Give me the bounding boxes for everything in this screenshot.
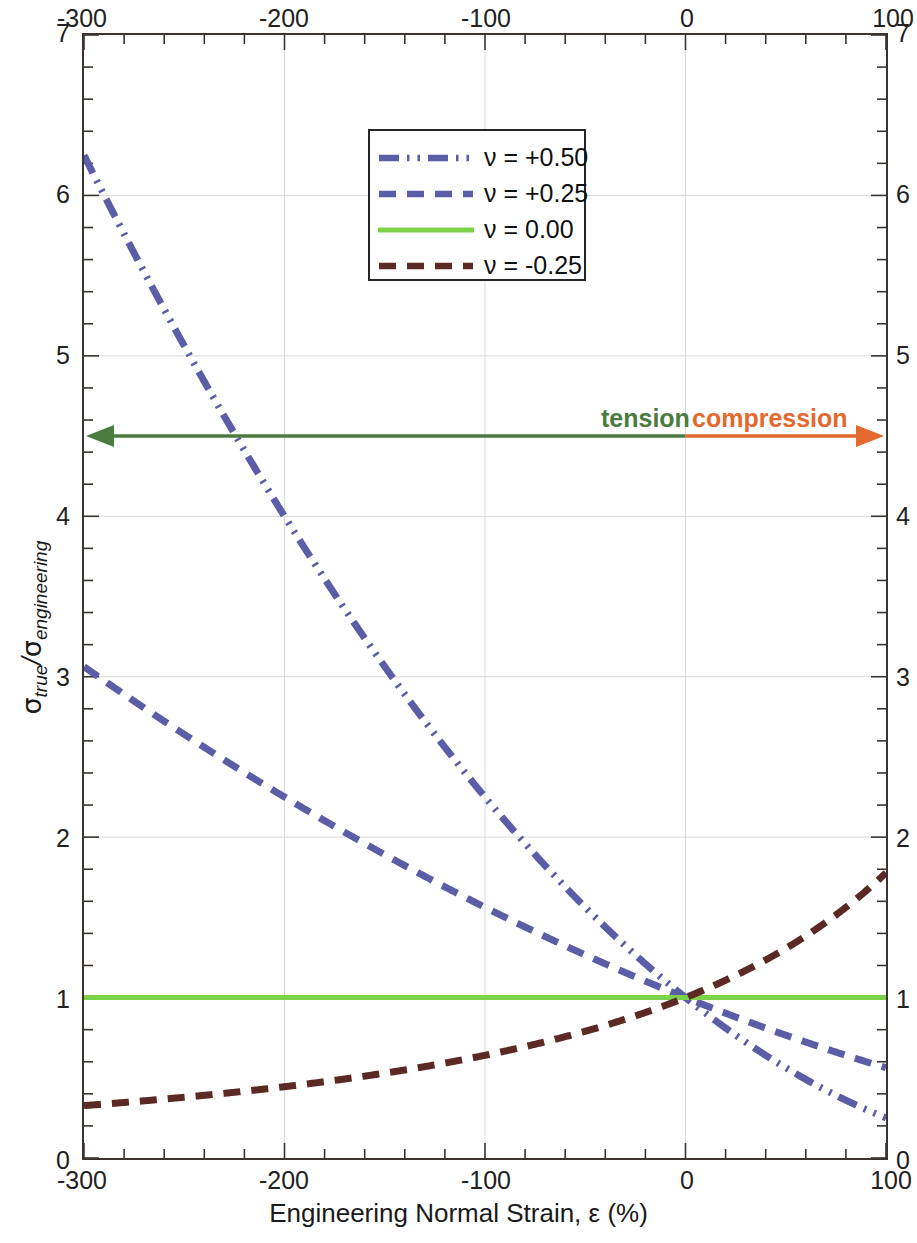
x-bottom-tick-label: 0	[680, 1166, 694, 1195]
tension-annotation-label: tension	[601, 404, 690, 433]
x-top-tick-label: -100	[461, 4, 511, 33]
y-right-tick-label: 0	[896, 1146, 910, 1175]
y-right-tick-label: 6	[896, 180, 910, 209]
chart-figure: -300 -200 -100 0 100 -300 -200 -100 0 10…	[0, 0, 917, 1243]
compression-annotation-label: compression	[692, 404, 848, 433]
x-bottom-tick-label: -200	[259, 1166, 309, 1195]
y-right-tick-label: 7	[896, 19, 910, 48]
legend-swatch-icon	[378, 151, 474, 165]
y-left-tick-label: 6	[44, 180, 70, 209]
compression-arrowhead-icon	[856, 425, 884, 447]
legend-swatch-icon	[378, 223, 474, 237]
y-left-tick-label: 2	[44, 824, 70, 853]
legend-entry: ν = -0.25	[370, 249, 584, 282]
legend-entry: ν = +0.50	[370, 141, 584, 174]
y-right-tick-label: 3	[896, 663, 910, 692]
y-left-tick-label: 7	[44, 19, 70, 48]
y-right-tick-label: 1	[896, 985, 910, 1014]
legend-label: ν = +0.25	[484, 179, 588, 208]
y-left-tick-label: 1	[44, 985, 70, 1014]
legend: ν = +0.50 ν = +0.25 ν = 0.00 ν = -0.25	[368, 129, 586, 281]
legend-label: ν = 0.00	[484, 215, 574, 244]
legend-swatch-icon	[378, 259, 474, 273]
legend-entry: ν = 0.00	[370, 213, 584, 246]
legend-label: ν = +0.50	[484, 143, 588, 172]
x-top-tick-label: 0	[680, 4, 694, 33]
legend-swatch-icon	[378, 187, 474, 201]
y-right-tick-label: 5	[896, 341, 910, 370]
y-left-tick-label: 5	[44, 341, 70, 370]
x-top-tick-label: -200	[259, 4, 309, 33]
y-right-tick-label: 2	[896, 824, 910, 853]
tension-arrowhead-icon	[86, 425, 114, 447]
legend-entry: ν = +0.25	[370, 177, 584, 210]
legend-label: ν = -0.25	[484, 251, 582, 280]
y-left-tick-label: 0	[44, 1146, 70, 1175]
x-axis-title: Engineering Normal Strain, ε (%)	[0, 1198, 917, 1229]
y-right-tick-label: 4	[896, 502, 910, 531]
y-axis-title: σtrue/σengineering	[16, 508, 51, 748]
x-bottom-tick-label: -100	[461, 1166, 511, 1195]
